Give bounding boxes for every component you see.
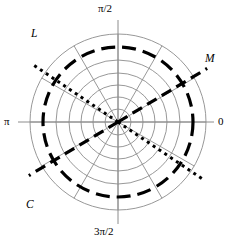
curve-label-M: M — [205, 53, 215, 65]
axis-label-pi-over-2: π/2 — [98, 3, 112, 14]
curve-label-L: L — [31, 28, 37, 40]
axis-label-zero: 0 — [218, 116, 224, 127]
axis-label-3pi-over-2: 3π/2 — [94, 226, 114, 237]
axis-label-pi: π — [4, 116, 10, 127]
curve-label-C: C — [26, 199, 34, 211]
polar-plot-figure: π/2 3π/2 π 0 L M C — [0, 0, 232, 244]
